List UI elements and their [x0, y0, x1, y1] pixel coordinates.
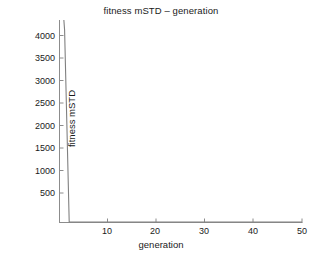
y-tick-label: 3000 [15, 76, 55, 86]
y-tick-label: 3500 [15, 53, 55, 63]
y-axis-ticks [60, 36, 64, 194]
y-axis-tick-labels: 4000 3500 3000 2500 2000 1500 1000 500 [11, 0, 55, 263]
y-tick-label: 2000 [15, 121, 55, 131]
figure-canvas: fitness mSTD – generation 4000 3500 3000… [0, 0, 322, 263]
y-tick-label: 1500 [15, 143, 55, 153]
plot-svg [59, 20, 307, 228]
plot-area: fitness mSTD [59, 20, 302, 222]
y-tick-label: 4000 [15, 31, 55, 41]
x-axis-tick-labels: 10 20 30 40 50 [0, 226, 322, 240]
data-series-fitness-mstd [64, 20, 302, 222]
x-axis-label: generation [0, 239, 322, 250]
y-tick-label: 2500 [15, 98, 55, 108]
series-polyline [64, 20, 302, 222]
axis-spines [59, 20, 303, 223]
y-tick-label: 500 [15, 188, 55, 198]
y-tick-label: 1000 [15, 166, 55, 176]
